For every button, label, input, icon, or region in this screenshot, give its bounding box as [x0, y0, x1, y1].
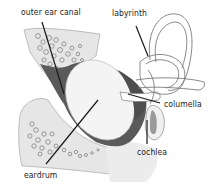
label-cochlea: cochlea — [137, 148, 167, 157]
label-columella: columella — [164, 100, 202, 109]
label-labyrinth: labyrinth — [112, 9, 147, 18]
label-eardrum: eardrum — [24, 171, 57, 180]
labyrinth-canals — [136, 14, 205, 104]
ear-illustration — [0, 0, 214, 189]
ear-diagram: outer ear canal labyrinth columella coch… — [0, 0, 214, 189]
label-outer-ear-canal: outer ear canal — [21, 8, 81, 17]
leader-labyrinth — [136, 26, 148, 56]
